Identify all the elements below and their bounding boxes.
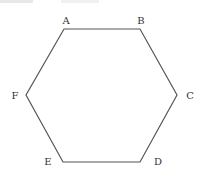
vertex-label-f: F — [12, 90, 19, 101]
vertex-label-b: B — [137, 15, 144, 26]
vertex-label-a: A — [61, 15, 70, 26]
hexagon-diagram: A B C D E F — [0, 0, 206, 179]
vertex-label-d: D — [154, 156, 162, 167]
vertex-label-e: E — [44, 156, 51, 167]
hexagon-shape — [26, 29, 177, 162]
vertex-label-c: C — [186, 90, 194, 101]
